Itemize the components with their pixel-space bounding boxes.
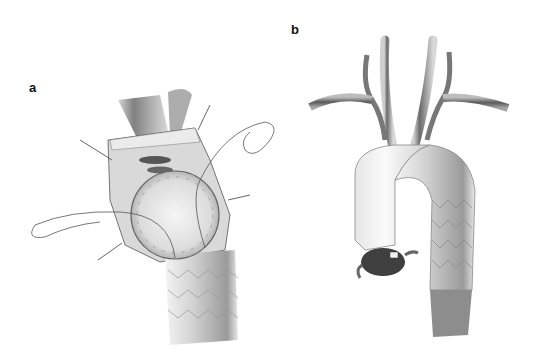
panel-b-illustration <box>310 40 508 337</box>
figure-illustration <box>0 0 536 359</box>
panel-a-illustration <box>32 89 274 345</box>
